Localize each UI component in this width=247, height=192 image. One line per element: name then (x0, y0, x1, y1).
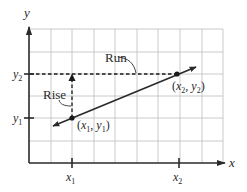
point-1-marker (69, 115, 74, 120)
slope-diagram: y x y2 y1 x1 x2 (x1, y1) (x2, y2) Rise R… (0, 0, 247, 192)
rise-label: Rise (43, 87, 66, 102)
x1-tick-label: x1 (65, 170, 75, 186)
point-1-label: (x1, y1) (77, 118, 110, 134)
x2-tick-label: x2 (172, 170, 182, 186)
point-2-marker (174, 71, 179, 76)
y1-tick-label: y1 (12, 111, 22, 127)
run-label: Run (105, 50, 127, 65)
slope-diagram-canvas: y x y2 y1 x1 x2 (x1, y1) (x2, y2) Rise R… (0, 0, 247, 192)
y2-tick-label: y2 (12, 67, 22, 83)
x-axis-label: x (228, 155, 235, 170)
point-2-label: (x2, y2) (172, 79, 205, 95)
y-axis-label: y (22, 5, 30, 20)
